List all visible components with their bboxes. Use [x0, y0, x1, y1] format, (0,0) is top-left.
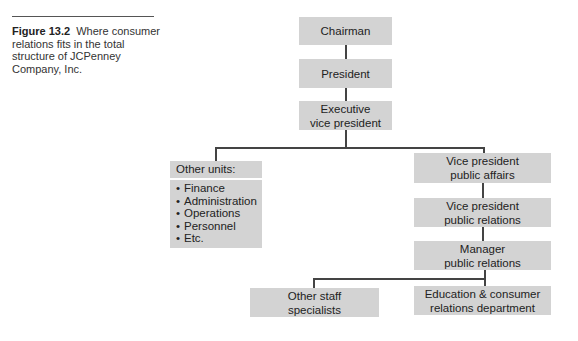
node-vp-public-relations: Vice president public relations	[414, 198, 551, 227]
connector-staff-horizontal	[313, 278, 486, 280]
node-chairman: Chairman	[299, 17, 392, 45]
connector-to-other-staff	[313, 278, 315, 288]
other-units-item: •Administration	[176, 195, 262, 208]
node-other-staff-specialists: Other staff specialists	[250, 288, 379, 317]
other-units-title: Other units:	[170, 161, 262, 178]
node-execvp-line1: Executive	[310, 102, 381, 116]
connector-to-other-units	[215, 147, 217, 161]
other-units-item-label: Personnel	[184, 220, 236, 232]
other-units-item-label: Finance	[184, 182, 225, 194]
other-units-item: •Operations	[176, 207, 262, 220]
node-executive-vice-president: Executive vice president	[299, 101, 392, 130]
bullet: •	[176, 195, 184, 208]
node-education-line1: Education & consumer	[425, 287, 541, 301]
node-manager-line1: Manager	[444, 242, 521, 256]
other-units-item-label: Etc.	[184, 232, 204, 244]
node-education-line2: relations department	[425, 301, 541, 315]
node-vppr-line1: Vice president	[444, 199, 521, 213]
connector-vppa-vppr	[482, 183, 484, 198]
other-units-item: •Finance	[176, 182, 262, 195]
node-chairman-label: Chairman	[321, 24, 371, 38]
connector-branch-horizontal	[215, 147, 485, 149]
connector-vppr-manager	[482, 227, 484, 241]
bullet: •	[176, 182, 184, 195]
bullet: •	[176, 220, 184, 233]
other-units-item-label: Operations	[184, 207, 240, 219]
figure-caption: Figure 13.2 Where consumer relations fit…	[12, 25, 162, 75]
node-manager-public-relations: Manager public relations	[414, 241, 551, 270]
other-units-item: •Personnel	[176, 220, 262, 233]
other-units-list: •Finance •Administration •Operations •Pe…	[170, 180, 262, 248]
node-execvp-line2: vice president	[310, 116, 381, 130]
node-president-label: President	[321, 67, 370, 81]
figure-label: Figure 13.2	[12, 25, 70, 37]
node-vp-public-affairs: Vice president public affairs	[414, 153, 551, 183]
bullet: •	[176, 207, 184, 220]
connector-president-execvp	[345, 88, 347, 101]
node-manager-line2: public relations	[444, 256, 521, 270]
node-vppr-line2: public relations	[444, 213, 521, 227]
connector-chairman-president	[345, 45, 347, 59]
other-units-item: •Etc.	[176, 232, 262, 245]
node-other-units: Other units: •Finance •Administration •O…	[170, 161, 262, 248]
caption-rule	[12, 16, 154, 17]
node-other-staff-line1: Other staff	[288, 289, 341, 303]
node-education-consumer-relations: Education & consumer relations departmen…	[414, 286, 551, 315]
node-other-staff-line2: specialists	[288, 303, 341, 317]
node-president: President	[299, 59, 392, 88]
bullet: •	[176, 232, 184, 245]
other-units-item-label: Administration	[184, 195, 257, 207]
node-vppa-line1: Vice president	[446, 154, 519, 168]
node-vppa-line2: public affairs	[446, 168, 519, 182]
